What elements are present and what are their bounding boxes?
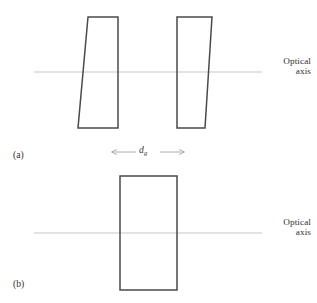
panel-caption-b: (b): [13, 278, 24, 289]
optical-axis-label-b-line1: Optical: [283, 217, 311, 227]
optical-axis-label-a: Optical axis: [283, 56, 311, 77]
right-wedge-prism: [177, 17, 212, 128]
optical-axis-label-a-line1: Optical: [283, 56, 311, 66]
optics-figure: Optical axis Optical axis dg (a) (b): [0, 0, 317, 303]
panel-a-group: [34, 17, 262, 128]
optical-axis-label-b-line2: axis: [283, 227, 311, 237]
optical-axis-label-b: Optical axis: [283, 217, 311, 238]
panel-b-group: [34, 176, 262, 290]
figure-canvas: [0, 0, 317, 303]
gap-dimension-label: dg: [139, 144, 147, 156]
optical-axis-label-a-line2: axis: [283, 66, 311, 76]
gap-symbol-subscript: g: [144, 149, 147, 156]
left-wedge-prism: [78, 17, 118, 128]
gap-dimension-arrow: [112, 150, 185, 155]
panel-caption-a: (a): [13, 149, 24, 160]
